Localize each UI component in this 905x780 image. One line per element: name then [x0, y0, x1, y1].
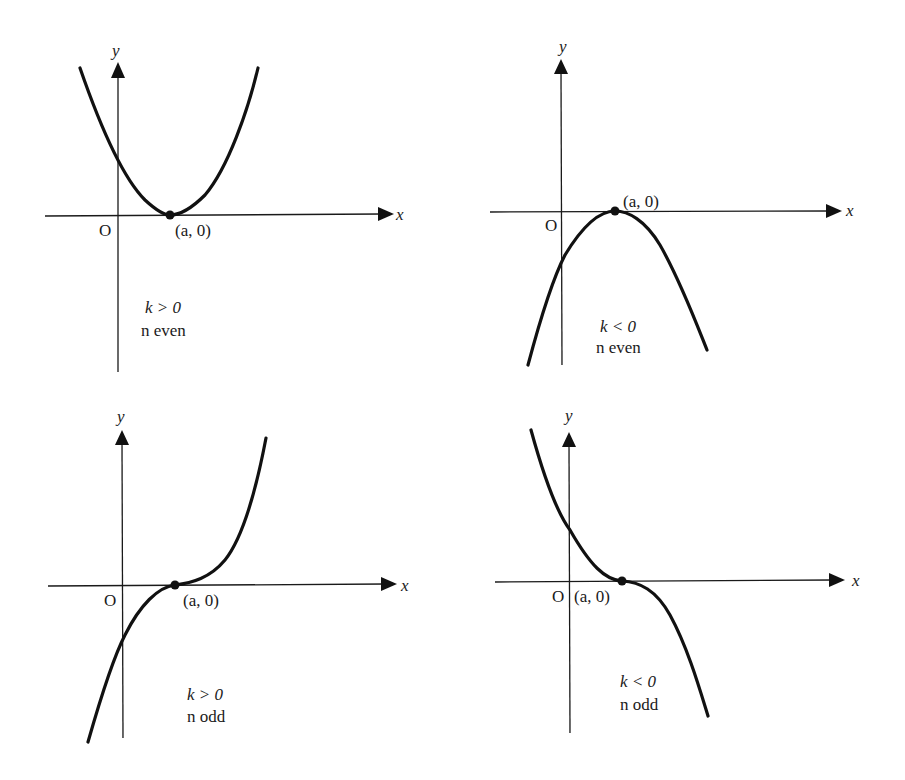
point-label: (a, 0)	[183, 592, 219, 609]
condition-n: n even	[596, 339, 641, 356]
origin-label: O	[552, 588, 564, 605]
x-axis	[45, 214, 382, 216]
x-axis	[495, 580, 833, 582]
point-a-zero	[171, 581, 180, 590]
condition-n: n odd	[620, 696, 658, 713]
y-axis-label: y	[565, 407, 573, 424]
y-axis-arrow-icon	[554, 59, 568, 74]
point-label: (a, 0)	[574, 588, 610, 605]
x-axis-arrow-icon	[378, 207, 394, 221]
x-axis-label: x	[852, 572, 860, 589]
condition-k: k < 0	[620, 673, 656, 690]
x-axis-arrow-icon	[829, 573, 845, 587]
x-axis	[48, 584, 385, 586]
x-axis	[490, 211, 830, 212]
point-a-zero	[611, 207, 620, 216]
condition-k: k < 0	[600, 318, 636, 335]
point-label: (a, 0)	[175, 222, 211, 239]
condition-n: n even	[141, 322, 186, 339]
condition-k: k > 0	[187, 686, 223, 703]
y-axis-arrow-icon	[562, 432, 576, 447]
y-axis-label: y	[112, 42, 120, 59]
panel-k-negative-n-even	[490, 59, 842, 365]
origin-label: O	[99, 222, 111, 239]
origin-label: O	[104, 592, 116, 609]
point-a-zero	[618, 577, 627, 586]
figure-canvas	[0, 0, 905, 780]
x-axis-arrow-icon	[381, 577, 397, 591]
y-axis-arrow-icon	[111, 62, 125, 78]
point-label: (a, 0)	[623, 193, 659, 210]
x-axis-label: x	[401, 577, 409, 594]
y-axis	[561, 72, 562, 365]
x-axis-label: x	[846, 202, 854, 219]
panel-k-negative-n-odd	[495, 430, 845, 733]
point-a-zero	[166, 211, 175, 220]
panel-k-positive-n-even	[45, 62, 394, 372]
condition-n: n odd	[187, 708, 225, 725]
curve	[80, 68, 258, 215]
x-axis-label: x	[396, 206, 404, 223]
y-axis-label: y	[559, 38, 567, 55]
y-axis-label: y	[117, 408, 125, 425]
y-axis	[569, 446, 570, 733]
x-axis-arrow-icon	[826, 204, 842, 218]
y-axis-arrow-icon	[115, 430, 129, 445]
y-axis	[122, 443, 123, 738]
condition-k: k > 0	[145, 299, 181, 316]
curve	[88, 438, 266, 742]
origin-label: O	[545, 217, 557, 234]
